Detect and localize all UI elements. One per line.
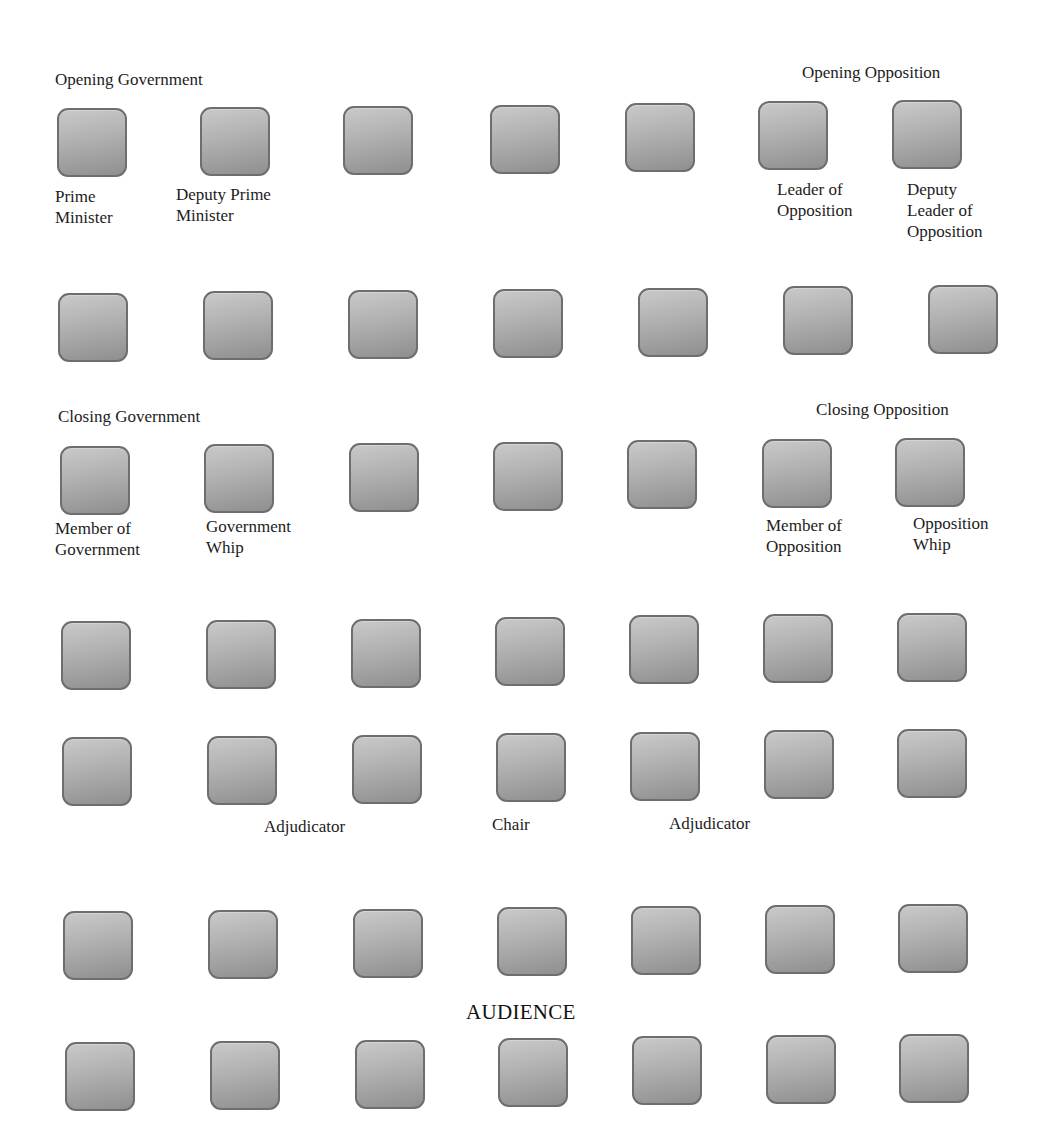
seat-r2-c7 xyxy=(928,285,998,354)
label-audience: AUDIENCE xyxy=(466,1000,576,1025)
seat-r7-c1 xyxy=(65,1042,135,1111)
seat-r6-c5 xyxy=(631,906,701,975)
seat-r7-c5 xyxy=(632,1036,702,1105)
seat-r1-c4 xyxy=(490,105,560,174)
seat-r6-c3 xyxy=(353,909,423,978)
label-deputy-prime-minister: Deputy Prime Minister xyxy=(176,184,271,226)
heading-opening-government: Opening Government xyxy=(55,70,203,90)
seat-r4-c7 xyxy=(897,613,967,682)
seat-r5-c2 xyxy=(207,736,277,805)
seat-r1-c5 xyxy=(625,103,695,172)
seat-r1-c3 xyxy=(343,106,413,175)
seat-r4-c5 xyxy=(629,615,699,684)
seat-r5-c6 xyxy=(764,730,834,799)
seat-r2-c1 xyxy=(58,293,128,362)
seat-r4-c2 xyxy=(206,620,276,689)
seat-r3-c5 xyxy=(627,440,697,509)
debate-seating-diagram: Opening Government Opening Opposition Cl… xyxy=(0,0,1046,1145)
seat-r5-c1 xyxy=(62,737,132,806)
seat-r4-c6 xyxy=(763,614,833,683)
heading-closing-government: Closing Government xyxy=(58,407,200,427)
seat-r5-c7 xyxy=(897,729,967,798)
label-prime-minister: Prime Minister xyxy=(55,186,113,228)
label-opposition-whip: Opposition Whip xyxy=(913,513,989,555)
seat-r1-c7 xyxy=(892,100,962,169)
seat-r4-c3 xyxy=(351,619,421,688)
seat-r3-c3 xyxy=(349,443,419,512)
seat-r5-c4 xyxy=(496,733,566,802)
label-chair: Chair xyxy=(492,814,530,835)
seat-r7-c2 xyxy=(210,1041,280,1110)
seat-r6-c1 xyxy=(63,911,133,980)
seat-r6-c4 xyxy=(497,907,567,976)
label-adjudicator-left: Adjudicator xyxy=(264,816,345,837)
seat-r5-c3 xyxy=(352,735,422,804)
label-member-of-government: Member of Government xyxy=(55,518,140,560)
seat-r2-c3 xyxy=(348,290,418,359)
seat-r1-c1 xyxy=(57,108,127,177)
heading-opening-opposition: Opening Opposition xyxy=(802,63,940,83)
seat-r7-c7 xyxy=(899,1034,969,1103)
seat-r5-c5 xyxy=(630,732,700,801)
seat-r2-c5 xyxy=(638,288,708,357)
seat-r4-c1 xyxy=(61,621,131,690)
seat-r2-c6 xyxy=(783,286,853,355)
seat-r6-c2 xyxy=(208,910,278,979)
seat-r7-c3 xyxy=(355,1040,425,1109)
seat-r1-c6 xyxy=(758,101,828,170)
label-leader-of-opposition: Leader of Opposition xyxy=(777,179,853,221)
seat-r3-c2 xyxy=(204,444,274,513)
seat-r3-c4 xyxy=(493,442,563,511)
seat-r6-c7 xyxy=(898,904,968,973)
seat-r3-c6 xyxy=(762,439,832,508)
seat-r3-c7 xyxy=(895,438,965,507)
seat-r2-c2 xyxy=(203,291,273,360)
seat-r6-c6 xyxy=(765,905,835,974)
label-adjudicator-right: Adjudicator xyxy=(669,813,750,834)
seat-r3-c1 xyxy=(60,446,130,515)
seat-r2-c4 xyxy=(493,289,563,358)
seat-r7-c6 xyxy=(766,1035,836,1104)
label-deputy-leader-of-opposition: Deputy Leader of Opposition xyxy=(907,179,983,242)
label-member-of-opposition: Member of Opposition xyxy=(766,515,842,557)
seat-r7-c4 xyxy=(498,1038,568,1107)
label-government-whip: Government Whip xyxy=(206,516,291,558)
heading-closing-opposition: Closing Opposition xyxy=(816,400,949,420)
seat-r1-c2 xyxy=(200,107,270,176)
seat-r4-c4 xyxy=(495,617,565,686)
